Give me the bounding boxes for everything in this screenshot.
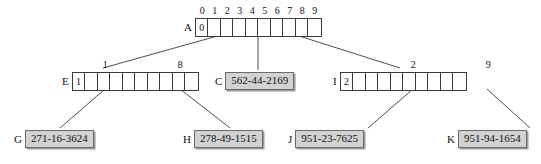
leaf-g-value[interactable]: 271-16-3624 (25, 130, 94, 148)
node-e-cell-1[interactable] (85, 73, 98, 90)
index-label: 9 (309, 6, 322, 16)
node-e-cell-6[interactable] (148, 73, 161, 90)
edge-e-g (60, 89, 105, 128)
diagram-canvas: 0 1 2 3 4 5 6 7 8 9 A 0 1 8 E 1 (0, 0, 541, 164)
edge-i-k (487, 89, 530, 128)
node-i-cell-8[interactable] (441, 73, 454, 90)
node-a-cell-4[interactable] (246, 19, 259, 36)
leaf-j-label: J (288, 134, 295, 145)
node-e-label: E (62, 76, 72, 87)
edge-i-j (368, 89, 413, 128)
node-a-cell-3[interactable] (233, 19, 246, 36)
node-a-label: A (184, 22, 195, 33)
node-e-cell-4[interactable] (123, 73, 136, 90)
node-e-cells[interactable]: 1 (72, 72, 199, 91)
index-label: 5 (259, 6, 272, 16)
node-i-caption-9: 9 (482, 60, 495, 70)
node-i-cell-0[interactable]: 2 (341, 73, 354, 90)
node-e-cell-0[interactable]: 1 (73, 73, 86, 90)
edge-a-e (103, 35, 221, 68)
index-label: 7 (284, 6, 297, 16)
leaf-c-label: C (215, 76, 225, 87)
index-label: 8 (296, 6, 309, 16)
node-i-cell-1[interactable] (353, 73, 366, 90)
node-a-cell-8[interactable] (296, 19, 309, 36)
edge-a-i (296, 35, 400, 68)
node-i-caption-2: 2 (407, 60, 420, 70)
leaf-h-value[interactable]: 278-49-1515 (194, 130, 263, 148)
node-e-cell-2[interactable] (98, 73, 111, 90)
node-i-cells[interactable]: 2 (340, 72, 467, 91)
index-label: 2 (221, 6, 234, 16)
node-i-cell-6[interactable] (416, 73, 429, 90)
node-e[interactable]: E 1 (62, 72, 199, 91)
node-e-cell-3[interactable] (110, 73, 123, 90)
leaf-h[interactable]: H 278-49-1515 (183, 130, 263, 148)
node-i-cell-5[interactable] (403, 73, 416, 90)
node-i-cell-3[interactable] (378, 73, 391, 90)
leaf-k[interactable]: K 951-94-1654 (447, 130, 527, 148)
leaf-g[interactable]: G 271-16-3624 (14, 130, 94, 148)
node-e-cell-9[interactable] (185, 73, 198, 90)
node-i-cell-7[interactable] (428, 73, 441, 90)
node-e-cell-7[interactable] (160, 73, 173, 90)
node-a-cells[interactable]: 0 (195, 18, 322, 37)
node-a-cell-5[interactable] (258, 19, 271, 36)
node-a-cell-7[interactable] (283, 19, 296, 36)
node-e-cell-5[interactable] (135, 73, 148, 90)
node-a[interactable]: A 0 (184, 18, 322, 37)
index-label: 1 (209, 6, 222, 16)
node-i-label: I (333, 76, 340, 87)
node-e-caption-8: 8 (174, 60, 187, 70)
node-i-cell-9[interactable] (453, 73, 466, 90)
leaf-h-label: H (183, 134, 194, 145)
index-label: 3 (234, 6, 247, 16)
node-a-cell-2[interactable] (221, 19, 234, 36)
leaf-g-label: G (14, 134, 25, 145)
leaf-j[interactable]: J 951-23-7625 (288, 130, 364, 148)
index-label: 0 (196, 6, 209, 16)
node-e-cell-8[interactable] (173, 73, 186, 90)
root-index-row: 0 1 2 3 4 5 6 7 8 9 (196, 6, 321, 16)
leaf-k-label: K (447, 134, 458, 145)
node-i-cell-2[interactable] (366, 73, 379, 90)
node-a-cell-1[interactable] (208, 19, 221, 36)
leaf-c-value[interactable]: 562-44-2169 (225, 72, 294, 90)
leaf-j-value[interactable]: 951-23-7625 (295, 130, 364, 148)
index-label: 6 (271, 6, 284, 16)
node-e-caption-1: 1 (99, 60, 112, 70)
node-a-cell-6[interactable] (271, 19, 284, 36)
leaf-c[interactable]: C 562-44-2169 (215, 72, 294, 90)
node-i[interactable]: I 2 (333, 72, 467, 91)
node-i-cell-4[interactable] (391, 73, 404, 90)
index-label: 4 (246, 6, 259, 16)
node-a-cell-0[interactable]: 0 (196, 19, 209, 36)
leaf-k-value[interactable]: 951-94-1654 (458, 130, 527, 148)
edge-e-h (180, 89, 230, 128)
node-a-cell-9[interactable] (308, 19, 321, 36)
